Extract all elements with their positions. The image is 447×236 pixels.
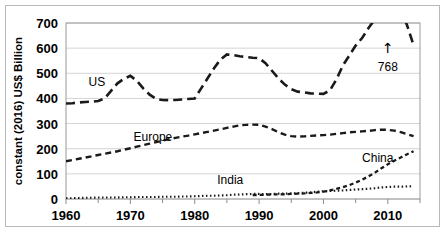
series-label-china: China	[362, 151, 394, 165]
x-axis-tick-label: 1970	[116, 208, 145, 223]
series-line-india	[66, 186, 414, 198]
x-axis-tick-label: 1960	[52, 208, 81, 223]
y-axis-tick-label: 100	[36, 167, 58, 182]
y-axis-tick-label: 400	[36, 91, 58, 106]
y-axis-tick-label: 300	[36, 117, 58, 132]
y-axis-tick-label: 0	[51, 192, 58, 207]
series-line-us	[66, 6, 414, 104]
series-label-india: India	[217, 173, 243, 187]
x-axis-tick-label: 2000	[309, 208, 338, 223]
series-label-us: US	[89, 75, 106, 89]
x-axis-tick-label: 1990	[245, 208, 274, 223]
y-axis-title: constant (2016) US$ Billion	[12, 37, 24, 185]
y-axis-tick-label: 700	[36, 16, 58, 31]
y-axis-tick-label: 500	[36, 66, 58, 81]
annotation-up-arrow-icon: ↑	[382, 40, 394, 56]
line-chart: 0100200300400500600700196019701980199020…	[0, 0, 447, 236]
x-axis-tick-label: 2010	[373, 208, 402, 223]
annotation-value-768: 768	[378, 60, 398, 74]
y-axis-tick-label: 600	[36, 41, 58, 56]
y-axis-tick-label: 200	[36, 142, 58, 157]
series-label-europe: Europe	[134, 130, 173, 144]
x-axis-tick-label: 1980	[180, 208, 209, 223]
chart-figure: 0100200300400500600700196019701980199020…	[0, 0, 447, 236]
